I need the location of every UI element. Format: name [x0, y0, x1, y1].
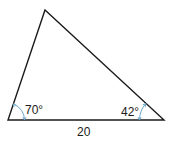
angle-label-left: 70° — [25, 103, 43, 117]
angle-label-right: 42° — [121, 105, 139, 119]
angle-arc-right-icon — [138, 104, 146, 120]
triangle-figure: 70° 42° 20 — [0, 0, 170, 142]
side-label-base: 20 — [77, 125, 91, 139]
